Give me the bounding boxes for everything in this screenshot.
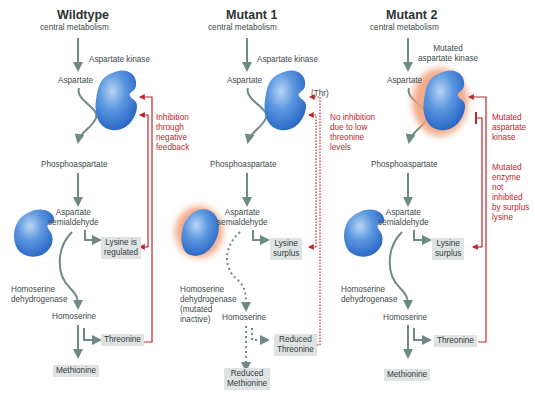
wildtype-enzyme-aspartate-kinase — [96, 70, 137, 130]
wildtype-threonine-box: Threonine — [101, 334, 144, 346]
mutant2-note-mutated-kinase: Mutatedaspartatekinase — [492, 113, 526, 143]
wildtype-lysine-box: Lysine isregulated — [101, 237, 141, 259]
mutant1-enzyme-aspartate-kinase — [265, 70, 306, 130]
mutant1-lysine-box: Lysinesurplus — [270, 238, 302, 260]
wildtype-feedback-note: Inhibitionthroughnegativefeedback — [156, 113, 189, 153]
mutant1-aspartate-kinase-label: Aspartate kinase — [257, 55, 318, 65]
mutant2-title: Mutant 2 — [386, 8, 437, 22]
mutant2-lysine-box: Lysinesurplus — [432, 238, 464, 260]
wildtype-methionine-box: Methionine — [53, 365, 99, 377]
mutant2-mutated-aspartate-kinase-label: Mutatedaspartate kinase — [418, 44, 478, 64]
mutant2-central-metabolism: central metabolism — [370, 23, 439, 33]
mutant2-homoserine-dehydrogenase-label: Homoserinedehydrogenase — [341, 285, 397, 305]
mutant2-note-not-inhibited: Mutatedenzymenotinhibitedby surpluslysin… — [492, 163, 529, 223]
wildtype-homoserine-dehydrogenase-label: Homoserinedehydrogenase — [11, 285, 67, 305]
mutant1-title: Mutant 1 — [226, 8, 277, 22]
mutant2-homoserine: Homoserine — [383, 313, 427, 323]
wildtype-homoserine: Homoserine — [52, 312, 96, 322]
mutant1-central-metabolism: central metabolism — [208, 23, 277, 33]
mutant2-phosphoaspartate: Phosphoaspartate — [371, 160, 437, 170]
mutant2-aspartate: Aspartate — [387, 76, 422, 86]
wildtype-feedback-lines — [135, 97, 152, 342]
wildtype-phosphoaspartate: Phosphoaspartate — [41, 160, 107, 170]
mutant2-aspartate-semialdehyde: Aspartatesemialdehyde — [378, 208, 429, 228]
mutant1-homoserine: Homoserine — [222, 313, 266, 323]
wildtype-central-metabolism: central metabolism — [40, 23, 109, 33]
mutant2-feedback-lines — [469, 97, 486, 342]
mutant2-methionine-box: Methionine — [384, 369, 430, 381]
mutant1-phosphoaspartate: Phosphoaspartate — [210, 160, 276, 170]
mutant1-reduced-threonine-box: ReducedThreonine — [274, 334, 317, 356]
mutant2-threonine-box: Threonine — [434, 335, 477, 347]
mutant1-reduced-methionine-box: ReducedMethionine — [224, 368, 270, 390]
wildtype-aspartate-kinase-label: Aspartate kinase — [89, 55, 150, 65]
mutant1-enzyme-homoserine-dehydrogenase-mutated — [175, 206, 223, 258]
mutant1-feedback-lines — [309, 97, 320, 345]
wildtype-aspartate-semialdehyde: Aspartatesemialdehyde — [48, 208, 99, 228]
mutant1-feedback-note: No inhibitiondue to lowthreoninelevels — [330, 113, 375, 153]
mutant1-aspartate: Aspartate — [227, 76, 262, 86]
wildtype-aspartate: Aspartate — [58, 76, 93, 86]
mutant1-thr-label: (Thr) — [311, 89, 329, 99]
wildtype-title: Wildtype — [57, 8, 109, 22]
mutant1-aspartate-semialdehyde: Aspartatesemialdehyde — [217, 208, 268, 228]
